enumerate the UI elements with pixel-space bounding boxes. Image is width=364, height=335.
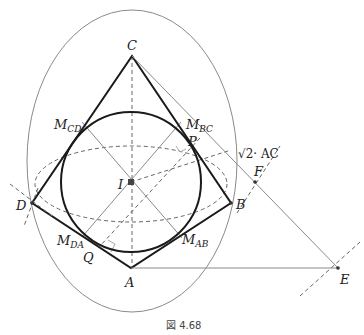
- label-sqrt2-AC: √2· AC: [238, 147, 279, 161]
- point-F: [253, 180, 257, 184]
- label-P: P: [187, 134, 197, 149]
- dashed-tick-E: [300, 242, 360, 296]
- point-D: [30, 201, 34, 205]
- right-angle-P: [176, 146, 186, 152]
- label-MCD: MCD: [53, 117, 81, 134]
- label-I: I: [117, 177, 124, 192]
- label-MAB: MAB: [181, 232, 209, 249]
- geometry-figure: C A D B I E F P Q MCD MBC MDA MAB √2· AC…: [0, 0, 364, 335]
- label-C: C: [127, 38, 137, 53]
- line-P-Q: [100, 138, 200, 246]
- line-I-B-dashed: [131, 150, 231, 182]
- label-MBC: MBC: [185, 117, 213, 134]
- point-B: [229, 201, 233, 205]
- label-D: D: [15, 198, 27, 213]
- label-A: A: [124, 275, 134, 290]
- line-CE: [132, 56, 338, 268]
- label-Q: Q: [83, 250, 94, 265]
- point-I: [128, 179, 134, 185]
- label-F: F: [253, 164, 264, 179]
- figure-caption: 図 4.68: [166, 320, 201, 331]
- point-E: [336, 266, 340, 270]
- label-B: B: [235, 197, 246, 212]
- label-E: E: [339, 272, 350, 287]
